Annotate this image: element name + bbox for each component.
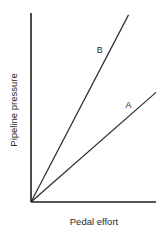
series-line-b xyxy=(31,15,129,202)
series-label-a: A xyxy=(125,100,131,110)
series-label-b: B xyxy=(97,45,103,55)
y-axis-label: Pipeline pressure xyxy=(8,73,19,146)
x-axis-label: Pedal effort xyxy=(70,216,119,227)
series-line-a xyxy=(31,92,156,202)
chart-canvas: A B Pedal effort Pipeline pressure xyxy=(0,0,167,235)
